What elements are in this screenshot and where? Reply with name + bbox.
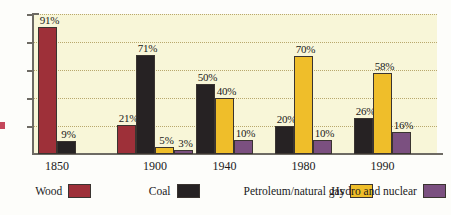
legend-label: Wood (35, 185, 62, 197)
bar (275, 126, 294, 154)
legend-label: Hydro and nuclear (331, 185, 417, 197)
bar-chart-figure: WoodCoalPetroleum/natural gasHydro and n… (0, 0, 451, 215)
bar-value-label: 10% (232, 127, 259, 139)
y-axis-tick (27, 126, 34, 128)
bar-value-label: 58% (371, 60, 398, 72)
bar-value-label: 9% (55, 128, 82, 140)
bar (373, 73, 392, 154)
y-axis-tick (27, 42, 34, 44)
legend-item: Wood (35, 184, 91, 198)
legend-swatch (177, 184, 200, 198)
legend-label: Petroleum/natural gas (244, 185, 345, 197)
bar (117, 125, 136, 154)
scan-artifact (0, 122, 5, 129)
bar (174, 150, 193, 154)
bar-value-label: 70% (292, 43, 319, 55)
gridline (33, 14, 437, 15)
bar-value-label: 50% (194, 71, 221, 83)
bar-value-label: 3% (172, 137, 199, 149)
y-axis-tick (27, 70, 34, 72)
legend-swatch (68, 184, 91, 198)
x-axis-group-label: 1850 (18, 159, 96, 174)
bar (234, 140, 253, 154)
y-axis-tick (27, 14, 34, 16)
bar (313, 140, 332, 154)
y-axis-tick (27, 98, 34, 100)
gridline (33, 42, 437, 43)
legend-swatch (423, 184, 446, 198)
x-axis-group-label: 1990 (334, 159, 431, 174)
bar (215, 98, 234, 154)
bar-value-label: 16% (390, 119, 417, 131)
legend-item: Hydro and nuclear (331, 184, 446, 198)
legend-label: Coal (149, 185, 171, 197)
bar (392, 132, 411, 154)
bar (57, 141, 76, 154)
y-axis-line (32, 13, 34, 155)
bar (354, 118, 373, 154)
chart-legend: WoodCoalPetroleum/natural gasHydro and n… (0, 180, 451, 206)
legend-item: Coal (149, 184, 200, 198)
bar-value-label: 40% (213, 85, 240, 97)
bar-value-label: 91% (36, 14, 63, 26)
bar-value-label: 71% (134, 42, 161, 54)
bar-value-label: 10% (311, 127, 338, 139)
bar (294, 56, 313, 154)
